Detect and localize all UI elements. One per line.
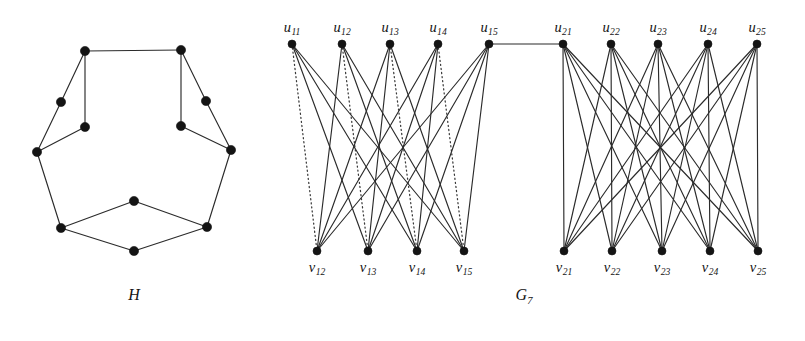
graph-g7-label-v25: v25 bbox=[750, 259, 766, 276]
graph-h-vertex-h1 bbox=[80, 46, 89, 55]
graph-g7-label-v14: v14 bbox=[409, 259, 425, 276]
graph-h-edge-h9-h11 bbox=[61, 201, 134, 228]
graph-g7-label-u21: u21 bbox=[554, 19, 571, 36]
graph-g7-label-u24: u24 bbox=[699, 19, 716, 36]
graph-g7-label-u15: u15 bbox=[480, 19, 497, 36]
graph-g7-label-v24: v24 bbox=[702, 259, 718, 276]
label-base: u bbox=[284, 19, 291, 35]
graph-g7-vertex-u14 bbox=[434, 40, 442, 48]
graph-g7-vertex-u15 bbox=[485, 40, 493, 48]
label-base: u bbox=[381, 19, 388, 35]
graph-g7-label-v21: v21 bbox=[556, 259, 572, 276]
label-subscript: 15 bbox=[463, 266, 473, 277]
graph-g7-vertex-u23 bbox=[654, 40, 662, 48]
label-subscript: 22 bbox=[611, 266, 621, 277]
graph-g7-vertex-u25 bbox=[753, 40, 761, 48]
graph-g7-edge-u22-v21 bbox=[564, 44, 611, 251]
label-base: v bbox=[556, 259, 563, 275]
graph-g7-edge-u25-v25 bbox=[757, 44, 758, 251]
label-base: v bbox=[360, 259, 367, 275]
graph-g7-label-u14: u14 bbox=[429, 19, 446, 36]
graph-h-edge-h5-h7 bbox=[37, 127, 85, 152]
graph-G7-edge-layer bbox=[292, 44, 758, 251]
label-base: v bbox=[456, 259, 463, 275]
graph-h-edge-h1-h2 bbox=[85, 50, 181, 51]
graph-g7-vertex-u12 bbox=[338, 40, 346, 48]
graph-g7-vertex-v24 bbox=[706, 247, 714, 255]
graph-g7-label-v13: v13 bbox=[360, 259, 376, 276]
graph-g7-vertex-v21 bbox=[560, 247, 568, 255]
label-base: u bbox=[480, 19, 487, 35]
graph-g7-label-u23: u23 bbox=[649, 19, 666, 36]
graph-h-vertex-h3 bbox=[56, 97, 65, 106]
graph-g7-label-v12: v12 bbox=[309, 259, 325, 276]
label-subscript: 13 bbox=[389, 26, 399, 37]
graph-h-vertex-h5 bbox=[80, 122, 89, 131]
graph-g7-vertex-u11 bbox=[288, 40, 296, 48]
graph-H-vertex-layer bbox=[32, 45, 235, 255]
label-base: u bbox=[748, 19, 755, 35]
graph-g7-label-v22: v22 bbox=[604, 259, 620, 276]
label-subscript: 13 bbox=[367, 266, 377, 277]
graph-g7-edge-u11-v14 bbox=[292, 44, 417, 251]
label-base: u bbox=[699, 19, 706, 35]
graph-h-edge-h8-h10 bbox=[207, 150, 231, 227]
figure-container: u11u12u13u14u15u21u22u23u24u25v12v13v14v… bbox=[0, 0, 805, 341]
label-base: u bbox=[429, 19, 436, 35]
graph-g7-vertex-v12 bbox=[313, 247, 321, 255]
label-subscript: 12 bbox=[341, 26, 351, 37]
caption-base: H bbox=[128, 286, 140, 303]
graph-h-vertex-h7 bbox=[32, 147, 41, 156]
graph-g7-vertex-v14 bbox=[413, 247, 421, 255]
label-subscript: 15 bbox=[488, 26, 498, 37]
graph-h-edge-h4-h8 bbox=[206, 101, 231, 150]
graph-h-vertex-h12 bbox=[129, 246, 138, 255]
graph-g7-label-u25: u25 bbox=[748, 19, 765, 36]
label-base: u bbox=[554, 19, 561, 35]
label-subscript: 21 bbox=[562, 26, 572, 37]
label-subscript: 21 bbox=[563, 266, 573, 277]
caption-H: H bbox=[128, 286, 140, 304]
graph-g7-vertex-v23 bbox=[658, 247, 666, 255]
graph-h-vertex-h8 bbox=[226, 145, 235, 154]
label-base: v bbox=[604, 259, 611, 275]
graph-g7-label-u11: u11 bbox=[284, 19, 300, 36]
graph-H-edge-layer bbox=[37, 50, 231, 251]
graph-g7-vertex-u22 bbox=[607, 40, 615, 48]
graph-h-edge-h2-h4 bbox=[181, 50, 206, 101]
graph-g7-edge-u15-v12 bbox=[317, 44, 489, 251]
label-subscript: 23 bbox=[661, 266, 671, 277]
label-base: u bbox=[649, 19, 656, 35]
label-subscript: 25 bbox=[757, 266, 767, 277]
graph-g7-vertex-v22 bbox=[608, 247, 616, 255]
graph-g7-vertex-u13 bbox=[386, 40, 394, 48]
graph-g7-label-u22: u22 bbox=[602, 19, 619, 36]
graph-g7-edge-u14-v15 bbox=[438, 44, 464, 251]
caption-base: G bbox=[516, 286, 528, 303]
graph-g7-edge-u15-v15 bbox=[464, 44, 489, 251]
label-subscript: 25 bbox=[756, 26, 766, 37]
graph-h-vertex-h11 bbox=[129, 196, 138, 205]
graph-h-edge-h7-h9 bbox=[37, 152, 61, 228]
caption-subscript: 7 bbox=[527, 295, 532, 306]
graph-g7-vertex-v13 bbox=[364, 247, 372, 255]
label-base: v bbox=[309, 259, 316, 275]
label-subscript: 14 bbox=[437, 26, 447, 37]
graph-h-vertex-h6 bbox=[176, 121, 185, 130]
graph-g7-edge-u12-v12 bbox=[317, 44, 342, 251]
graph-h-vertex-h9 bbox=[56, 223, 65, 232]
caption-G7: G7 bbox=[516, 286, 533, 304]
graph-g7-label-u12: u12 bbox=[333, 19, 350, 36]
label-subscript: 11 bbox=[291, 26, 300, 37]
graph-h-vertex-h10 bbox=[202, 222, 211, 231]
graph-h-vertex-h4 bbox=[201, 96, 210, 105]
label-base: u bbox=[602, 19, 609, 35]
graph-g7-vertex-u21 bbox=[559, 40, 567, 48]
label-base: v bbox=[702, 259, 709, 275]
label-base: u bbox=[333, 19, 340, 35]
graph-h-vertex-h2 bbox=[176, 45, 185, 54]
graph-g7-vertex-v25 bbox=[754, 247, 762, 255]
label-subscript: 22 bbox=[610, 26, 620, 37]
graph-g7-label-v15: v15 bbox=[456, 259, 472, 276]
label-base: v bbox=[750, 259, 757, 275]
